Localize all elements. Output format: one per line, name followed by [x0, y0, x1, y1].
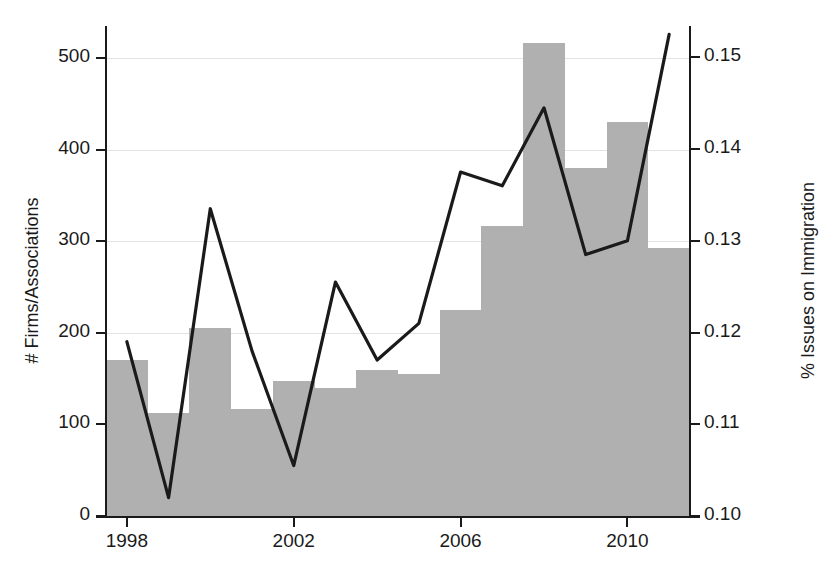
y-axis-right-tick-label: 0.15	[704, 44, 784, 66]
x-axis-tick	[460, 518, 462, 527]
y-axis-left-tick-label: 0	[26, 503, 90, 525]
y-axis-left-tick-label: 100	[26, 411, 90, 433]
y-axis-right-tick-label: 0.13	[704, 228, 784, 250]
y-axis-right-tick	[691, 240, 700, 242]
y-axis-left-tick	[96, 423, 105, 425]
y-axis-left-tick	[96, 332, 105, 334]
y-axis-left-tick-label: 400	[26, 137, 90, 159]
y-axis-left-tick	[96, 149, 105, 151]
x-axis-tick-label: 1998	[82, 530, 172, 552]
x-axis-tick	[293, 518, 295, 527]
y-axis-right-tick	[691, 423, 700, 425]
line-path	[127, 34, 669, 497]
chart-figure: # Firms/Associations % Issues on Immigra…	[0, 0, 836, 585]
x-axis-tick-label: 2002	[249, 530, 339, 552]
y-axis-left-title: # Firms/Associations	[22, 121, 43, 441]
axis-spine-bottom	[96, 516, 700, 518]
y-axis-right-tick-label: 0.11	[704, 411, 784, 433]
axis-spine-left	[105, 26, 107, 518]
y-axis-right-tick-label: 0.14	[704, 136, 784, 158]
y-axis-right-tick	[691, 515, 700, 517]
y-axis-right-tick	[691, 148, 700, 150]
y-axis-left-tick	[96, 240, 105, 242]
x-axis-tick-label: 2010	[582, 530, 672, 552]
y-axis-right-tick	[691, 56, 700, 58]
y-axis-right-tick-label: 0.10	[704, 503, 784, 525]
y-axis-right-title: % Issues on Immigration	[798, 121, 819, 441]
y-axis-left-tick-label: 200	[26, 320, 90, 342]
x-axis-tick	[626, 518, 628, 527]
y-axis-left-tick-label: 300	[26, 228, 90, 250]
y-axis-right-tick	[691, 332, 700, 334]
axis-spine-right	[689, 26, 691, 518]
y-axis-left-tick	[96, 57, 105, 59]
y-axis-left-tick-label: 500	[26, 45, 90, 67]
x-axis-tick	[126, 518, 128, 527]
y-axis-left-tick	[96, 515, 105, 517]
x-axis-tick-label: 2006	[416, 530, 506, 552]
line-series	[106, 28, 690, 516]
y-axis-right-tick-label: 0.12	[704, 320, 784, 342]
